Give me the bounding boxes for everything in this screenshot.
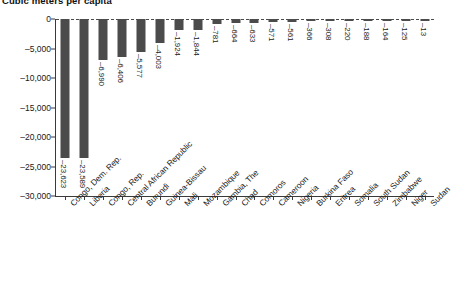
- y-axis-tick-label: –5,000: [25, 44, 51, 54]
- bar-value-label: –781: [211, 26, 220, 43]
- bar-value-label: –1,844: [192, 32, 201, 56]
- bar-slot[interactable]: –23,589: [75, 19, 94, 196]
- bar[interactable]: [288, 19, 297, 22]
- bar[interactable]: [420, 19, 429, 21]
- bar[interactable]: [363, 19, 372, 21]
- bar-slot[interactable]: –164: [377, 19, 396, 196]
- x-axis-category-label: South Sudan: [371, 201, 378, 208]
- x-axis-category-label: Somalia: [352, 201, 359, 208]
- bar-value-label: –664: [230, 25, 239, 42]
- y-axis-tick-label: –10,000: [20, 73, 51, 83]
- bar-slot[interactable]: –188: [358, 19, 377, 196]
- bar-value-label: –366: [306, 23, 315, 40]
- x-axis-category-label: Eritrea: [333, 201, 340, 208]
- bar[interactable]: [155, 19, 164, 43]
- x-axis-category-label: Burkina Faso: [314, 201, 321, 208]
- bar-slot[interactable]: –23,623: [56, 19, 75, 196]
- bar[interactable]: [382, 19, 391, 21]
- bar-slot[interactable]: –781: [207, 19, 226, 196]
- y-axis-tick-mark: [51, 196, 55, 197]
- bar-slot[interactable]: –1,924: [169, 19, 188, 196]
- y-axis-tick-mark: [51, 137, 55, 138]
- bar[interactable]: [99, 19, 108, 60]
- bar-slot[interactable]: –571: [264, 19, 283, 196]
- x-axis-category-label: Chad: [239, 201, 246, 208]
- bar[interactable]: [326, 19, 335, 21]
- bar[interactable]: [307, 19, 316, 21]
- bar-value-label: –23,623: [60, 160, 69, 188]
- bar-value-label: –308: [324, 23, 333, 40]
- x-axis-category-label: Mali: [182, 201, 189, 208]
- x-axis-category-label: Burundi: [144, 201, 151, 208]
- bar-slot[interactable]: –13: [415, 19, 434, 196]
- bar-value-label: –571: [268, 24, 277, 41]
- bar-value-label: –125: [400, 23, 409, 40]
- x-axis-category-label: Congo, Rep.: [106, 201, 113, 208]
- y-axis-tick-mark: [51, 107, 55, 108]
- y-axis-tick-mark: [51, 19, 55, 20]
- bar-value-label: –6,406: [117, 59, 126, 83]
- bar[interactable]: [137, 19, 146, 52]
- bar-value-label: –1,924: [173, 32, 182, 56]
- bar[interactable]: [250, 19, 259, 23]
- x-axis-category-label: Nigeria: [295, 201, 302, 208]
- bar-slot[interactable]: –561: [283, 19, 302, 196]
- bar-value-label: –13: [419, 23, 428, 36]
- bar-value-label: –633: [249, 25, 258, 42]
- x-axis-category-label: Niger: [409, 201, 416, 208]
- y-axis-tick-label: –25,000: [20, 162, 51, 172]
- y-axis-tick-label: –15,000: [20, 103, 51, 113]
- x-axis-tick-mark: [65, 196, 66, 200]
- y-axis-tick-mark: [51, 166, 55, 167]
- bar-value-label: –188: [362, 23, 371, 40]
- bar[interactable]: [118, 19, 127, 57]
- y-axis-tick-mark: [51, 78, 55, 79]
- x-axis-category-label: Congo, Dem. Rep.: [68, 201, 75, 208]
- bar[interactable]: [269, 19, 278, 22]
- bar[interactable]: [401, 19, 410, 21]
- bar[interactable]: [61, 19, 70, 158]
- bar-value-label: –5,577: [135, 54, 144, 78]
- x-axis-category-label: Gambia, The: [220, 201, 227, 208]
- bar-value-label: –220: [343, 23, 352, 40]
- y-axis-tick-label: –20,000: [20, 132, 51, 142]
- x-axis-category-label: Mozambique: [201, 201, 208, 208]
- bar[interactable]: [212, 19, 221, 24]
- y-axis-tick-label: –30,000: [20, 191, 51, 201]
- x-axis-category-label: Sudan: [428, 201, 435, 208]
- bar[interactable]: [231, 19, 240, 23]
- bar-slot[interactable]: –308: [321, 19, 340, 196]
- bar[interactable]: [80, 19, 89, 158]
- x-axis-category-label: Guinea-Bissau: [163, 201, 170, 208]
- bar-slot[interactable]: –6,406: [113, 19, 132, 196]
- x-axis-category-label: Zimbabwe: [390, 201, 397, 208]
- bar-slot[interactable]: –5,577: [132, 19, 151, 196]
- bar-value-label: –561: [287, 24, 296, 41]
- y-axis-ticks: 0–5,000–10,000–15,000–20,000–25,000–30,0…: [0, 0, 51, 300]
- x-axis-category-label: Liberia: [87, 201, 94, 208]
- x-axis-category-label: Cameroon: [276, 201, 283, 208]
- x-axis-category-label: Central African Republic: [125, 201, 132, 208]
- bar-value-label: –6,990: [98, 62, 107, 86]
- bar-value-label: –164: [381, 23, 390, 40]
- y-axis-tick-mark: [51, 48, 55, 49]
- bar-slot[interactable]: –366: [302, 19, 321, 196]
- bar[interactable]: [193, 19, 202, 30]
- bar[interactable]: [174, 19, 183, 30]
- bar[interactable]: [344, 19, 353, 21]
- x-axis-category-label: Comoros: [257, 201, 264, 208]
- bar-value-label: –4,003: [154, 45, 163, 69]
